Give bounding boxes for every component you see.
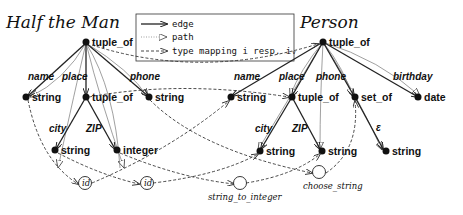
right-place-type-label: tuple_of xyxy=(298,91,339,103)
left-edge-phone: phone xyxy=(129,71,160,82)
right-edge-element: ε xyxy=(376,122,381,133)
left-edge-place: place xyxy=(61,71,88,82)
left-zip-type-label: integer xyxy=(123,144,158,156)
left-city-node xyxy=(52,147,59,154)
legend-path-label: path xyxy=(172,32,194,42)
right-phone-type-label: set_of xyxy=(361,91,392,103)
left-name-node xyxy=(23,94,30,101)
legend-mapping-label: type mapping i resp. iᵥ xyxy=(172,46,297,56)
left-phone-type-label: string xyxy=(155,91,184,103)
string-to-integer-node xyxy=(234,177,247,190)
right-city-type-label: string xyxy=(266,145,295,157)
left-place-type-label: tuple_of xyxy=(92,91,133,103)
left-graph-title: Half the Man xyxy=(5,12,120,32)
right-edge-place: place xyxy=(278,71,305,82)
right-zip-node xyxy=(319,148,326,155)
left-edge-city: city xyxy=(49,123,67,134)
left-phone-node xyxy=(146,94,153,101)
right-place-node xyxy=(289,94,296,101)
right-name-type-label: string xyxy=(237,91,266,103)
right-edge-phone: phone xyxy=(315,71,346,82)
legend-edge-label: edge xyxy=(172,19,194,29)
right-edge-city: city xyxy=(255,123,273,134)
left-city-type-label: string xyxy=(61,144,90,156)
right-birthday-node xyxy=(415,94,422,101)
left-name-type-label: string xyxy=(32,91,61,103)
left-place-node xyxy=(83,94,90,101)
choose-string-label: choose_string xyxy=(303,181,363,192)
right-edge-birthday: birthday xyxy=(393,71,433,82)
right-element-node xyxy=(383,148,390,155)
legend: edge path type mapping i resp. iᵥ xyxy=(136,14,297,61)
left-edge-name: name xyxy=(28,71,55,82)
right-zip-type-label: string xyxy=(328,145,357,157)
right-city-node xyxy=(257,148,264,155)
right-name-node xyxy=(228,94,235,101)
right-root-node xyxy=(320,39,327,46)
choose-string-node xyxy=(313,166,326,179)
string-to-integer-label: string_to_integer xyxy=(208,192,283,203)
function-nodes: id id string_to_integer choose_string xyxy=(79,166,364,204)
right-edge-name: name xyxy=(234,71,261,82)
type-mapping-diagram: Half the Man Person edge path type mappi… xyxy=(0,0,463,215)
right-element-type-label: string xyxy=(392,145,421,157)
right-root-label: tuple_of xyxy=(329,36,370,48)
left-zip-node xyxy=(114,147,121,154)
right-birthday-type-label: date xyxy=(424,91,446,103)
id-function-label-2: id xyxy=(144,178,153,188)
left-edge-zip: ZIP xyxy=(85,123,102,134)
left-root-node xyxy=(83,39,90,46)
left-root-label: tuple_of xyxy=(92,36,133,48)
right-edge-zip: ZIP xyxy=(291,123,308,134)
right-graph-title: Person xyxy=(299,12,359,32)
right-phone-node xyxy=(352,94,359,101)
id-function-label-1: id xyxy=(82,178,91,188)
